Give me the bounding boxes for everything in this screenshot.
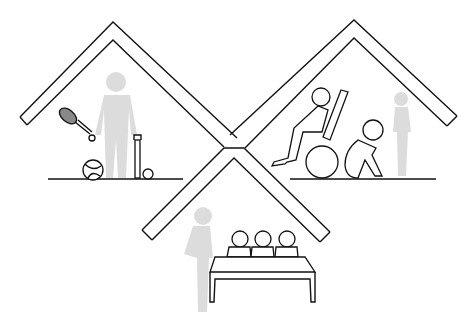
right-scene — [272, 88, 436, 179]
illustration — [0, 0, 469, 321]
small-ball-icon — [143, 169, 153, 179]
ghost-standing-figure — [393, 92, 411, 176]
bottom-scene — [184, 207, 315, 312]
hunched-person-icon — [345, 120, 383, 178]
left-roof — [20, 22, 237, 147]
tennis-racket-icon — [56, 105, 95, 141]
cricket-bat-icon — [134, 135, 141, 178]
right-roof — [230, 20, 457, 148]
bottom-roof — [142, 148, 330, 242]
ball-icon — [83, 160, 103, 180]
ghost-standing-figure — [95, 72, 137, 178]
wheelchair-person-icon — [272, 88, 348, 178]
house-diagram — [0, 0, 469, 321]
ghost-standing-figure — [184, 207, 213, 312]
table-icon — [210, 257, 315, 302]
panel-people-icon — [227, 231, 298, 257]
